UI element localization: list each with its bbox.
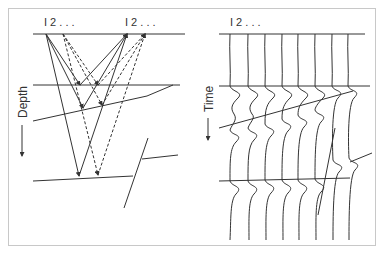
time-axis-label: Time [202, 85, 216, 112]
solid-ray-paths [46, 34, 127, 176]
right-panel: I 2 . . . Time [202, 16, 372, 240]
seismic-traces [230, 34, 358, 240]
trace-4 [282, 34, 292, 240]
trace-label-2: I 2 . . . [125, 16, 156, 28]
trace-8 [348, 34, 358, 240]
trace-label-1: I 2 . . . [44, 16, 75, 28]
fault-line [124, 138, 148, 208]
dashed-ray-paths [63, 34, 145, 175]
trace-1 [230, 34, 240, 240]
depth-axis-label: Depth [16, 86, 30, 118]
trace-2 [248, 34, 258, 240]
deep-reflector [33, 176, 133, 181]
offset-event [350, 153, 372, 162]
trace-label-3: I 2 . . . [230, 16, 261, 28]
offset-reflector [142, 155, 178, 159]
trace-5 [298, 34, 308, 240]
deep-event [219, 178, 350, 181]
trace-3 [265, 34, 275, 240]
left-panel: I 2 . . . I 2 . . . [16, 16, 185, 208]
seismic-diagram: I 2 . . . I 2 . . . [0, 0, 385, 253]
trace-6 [315, 34, 325, 240]
